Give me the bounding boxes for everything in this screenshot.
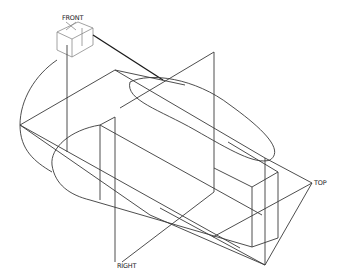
graphics-viewport[interactable]: FRONT TOP RIGHT bbox=[0, 0, 341, 278]
edge bbox=[100, 117, 115, 125]
edge bbox=[214, 168, 252, 187]
model-wireframe: FRONT TOP RIGHT bbox=[0, 0, 341, 278]
edge-dark bbox=[93, 35, 163, 80]
right-plane-outline[interactable] bbox=[120, 52, 214, 192]
edge bbox=[150, 215, 265, 265]
edge bbox=[100, 125, 262, 215]
edge bbox=[228, 142, 278, 172]
edge bbox=[20, 125, 150, 215]
outer-arc bbox=[20, 60, 57, 172]
edge bbox=[90, 200, 252, 247]
edge bbox=[213, 183, 312, 237]
front-plane-marker[interactable] bbox=[57, 22, 93, 57]
top-plane-label[interactable]: TOP bbox=[313, 179, 327, 187]
edge bbox=[20, 70, 115, 125]
lower-arc bbox=[52, 125, 100, 200]
edge bbox=[20, 125, 240, 248]
right-plane-label[interactable]: RIGHT bbox=[117, 262, 137, 270]
edge bbox=[122, 192, 214, 262]
front-plane-label[interactable]: FRONT bbox=[62, 14, 83, 22]
upper-ellipse bbox=[130, 77, 275, 161]
